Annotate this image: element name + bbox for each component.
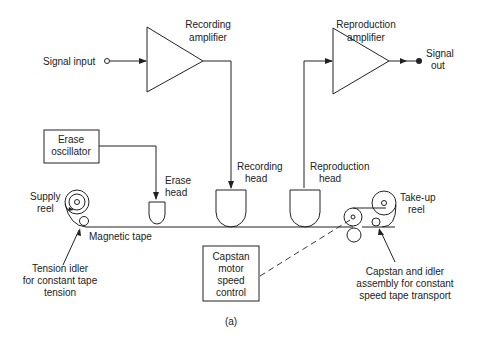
capstan-assembly	[344, 208, 395, 242]
capstan-control-label-1: Capstan	[212, 251, 249, 262]
signal-out-label-1: Signal	[426, 48, 454, 59]
recording-amplifier-label-2: amplifier	[189, 32, 227, 43]
capstan-control-label-2: motor	[218, 263, 244, 274]
reproduction-head-label-1: Reproduction	[310, 161, 369, 172]
takeup-reel-label-2: reel	[408, 204, 425, 215]
capstan-assembly-label-2: assembly for constant	[356, 278, 453, 289]
capstan-assembly-arrow-icon	[378, 228, 384, 235]
erase-head	[149, 202, 165, 224]
capstan-control-link	[260, 220, 350, 276]
supply-reel-label-1: Supply	[30, 191, 61, 202]
reproduction-amplifier-label-1: Reproduction	[336, 19, 395, 30]
tension-idler-label-1: Tension idler	[32, 263, 89, 274]
magnetic-tape-label: Magnetic tape	[89, 231, 152, 242]
capstan-assembly-label-3: speed tape transport	[359, 290, 451, 301]
reproduction-amplifier-label-2: amplifier	[347, 32, 385, 43]
capstan-assembly-label-1: Capstan and idler	[366, 266, 445, 277]
figure-caption: (a)	[225, 316, 237, 327]
reproduction-head-label-2: head	[319, 173, 341, 184]
capstan-control-label-3: speed	[217, 275, 244, 286]
signal-out-terminal	[416, 58, 422, 64]
takeup-reel	[372, 191, 396, 227]
recording-head	[216, 190, 246, 227]
reproduction-head	[290, 190, 320, 227]
tension-idler-label-2: for constant tape	[23, 275, 98, 286]
erase-oscillator-label-1: Erase	[58, 134, 85, 145]
erase-oscillator-label-2: oscillator	[51, 146, 91, 157]
erase-head-label-1: Erase	[165, 175, 192, 186]
takeup-reel-label-1: Take-up	[400, 192, 436, 203]
supply-reel-label-2: reel	[37, 203, 54, 214]
recording-head-label-2: head	[245, 173, 267, 184]
erase-head-wire	[99, 146, 156, 199]
tension-idler-roller	[80, 217, 89, 226]
recording-head-label-1: Recording	[237, 161, 283, 172]
recording-amplifier-label-1: Recording	[185, 19, 231, 30]
supply-reel	[65, 190, 89, 227]
signal-out-label-2: out	[431, 60, 445, 71]
signal-input-label: Signal input	[43, 56, 95, 67]
recording-head-wire	[203, 61, 231, 188]
tension-idler-pointer	[63, 230, 79, 265]
capstan-assembly-pointer	[381, 232, 395, 262]
signal-input-terminal	[105, 59, 110, 64]
capstan-control-label-4: control	[216, 287, 246, 298]
erase-head-label-2: head	[165, 187, 187, 198]
tension-idler-label-3: tension	[44, 287, 76, 298]
capstan-idler-roller	[372, 218, 380, 226]
